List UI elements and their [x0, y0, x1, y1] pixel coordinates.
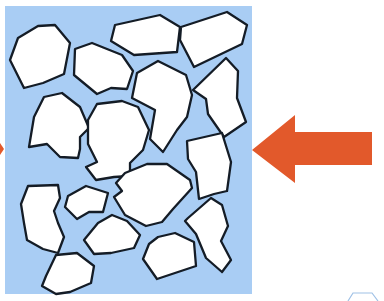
diagram-canvas: [0, 0, 384, 301]
left-arrow-icon: [252, 115, 372, 183]
partial-hexagon-outline: [348, 293, 378, 301]
left-edge-arrow-tip: [0, 143, 4, 155]
diagram-svg: [0, 0, 384, 301]
